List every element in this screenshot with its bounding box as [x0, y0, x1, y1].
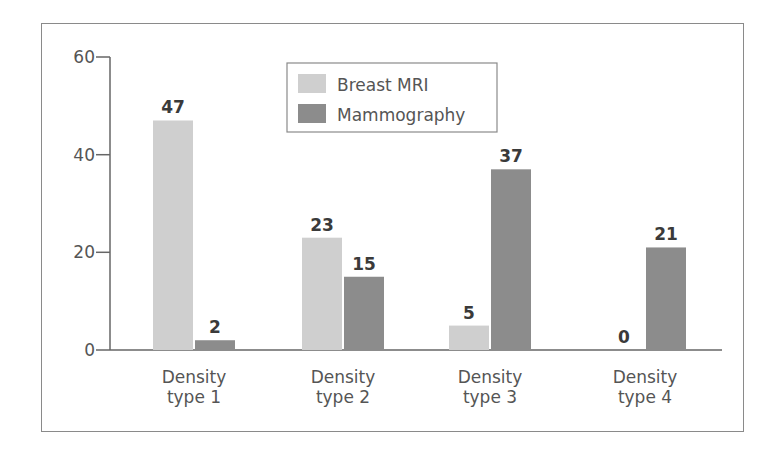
- y-ticks: 60 40 20 0: [73, 47, 110, 360]
- y-tick-label: 40: [73, 145, 95, 165]
- bar-mri: [153, 120, 193, 350]
- category-labels: Densitytype 1Densitytype 2Densitytype 3D…: [162, 367, 678, 407]
- value-label: 21: [654, 224, 678, 244]
- value-label: 0: [618, 327, 630, 347]
- category-label: type 4: [618, 387, 672, 407]
- category-label: Density: [613, 367, 678, 387]
- legend-swatch-mri: [298, 74, 326, 93]
- value-labels: 4722315537021: [161, 97, 678, 347]
- legend: Breast MRI Mammography: [287, 63, 497, 132]
- value-label: 37: [499, 146, 523, 166]
- bar-mammography: [344, 277, 384, 350]
- bar-mammography: [491, 169, 531, 350]
- bars: [153, 120, 686, 350]
- value-label: 2: [209, 317, 221, 337]
- category-label: type 3: [463, 387, 517, 407]
- y-tick-label: 20: [73, 242, 95, 262]
- bar-mammography: [646, 247, 686, 350]
- legend-label-mri: Breast MRI: [337, 75, 429, 95]
- category-label: type 2: [316, 387, 370, 407]
- y-tick-label: 60: [73, 47, 95, 67]
- value-label: 23: [310, 215, 334, 235]
- value-label: 47: [161, 97, 185, 117]
- category-label: Density: [458, 367, 523, 387]
- value-label: 15: [352, 254, 376, 274]
- bar-chart: 60 40 20 0 4722315537021 Densitytype 1De…: [0, 0, 772, 451]
- bar-mri: [449, 326, 489, 350]
- category-label: Density: [311, 367, 376, 387]
- category-label: Density: [162, 367, 227, 387]
- legend-label-mammography: Mammography: [337, 105, 465, 125]
- y-tick-label: 0: [84, 340, 95, 360]
- category-label: type 1: [167, 387, 221, 407]
- value-label: 5: [463, 303, 475, 323]
- legend-swatch-mammography: [298, 104, 326, 123]
- bar-mri: [302, 238, 342, 350]
- bar-mammography: [195, 340, 235, 350]
